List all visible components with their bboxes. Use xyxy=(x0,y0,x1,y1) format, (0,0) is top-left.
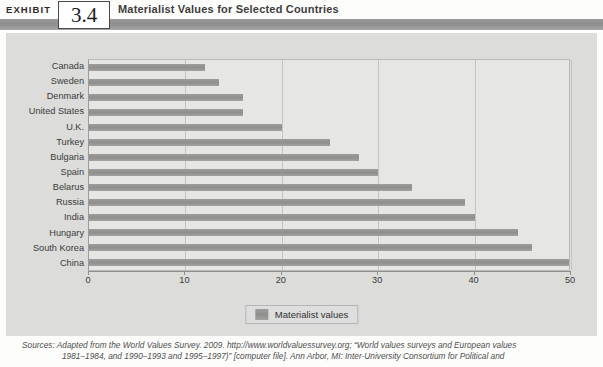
exhibit-word-label: EXHIBIT xyxy=(6,4,51,15)
bar xyxy=(89,154,359,161)
category-label: United States xyxy=(12,104,88,119)
x-axis-tick-label: 40 xyxy=(468,276,478,285)
legend-label: Materialist values xyxy=(275,310,348,320)
bar-row xyxy=(89,150,569,165)
bar-row xyxy=(89,210,569,225)
bar-row xyxy=(89,180,569,195)
category-label: Turkey xyxy=(12,135,88,150)
category-label: Denmark xyxy=(12,89,88,104)
bar-row xyxy=(89,60,569,75)
bar-row xyxy=(89,135,569,150)
exhibit-title: Materialist Values for Selected Countrie… xyxy=(118,3,339,15)
legend-swatch-icon xyxy=(255,309,268,320)
chart-legend: Materialist values xyxy=(245,305,358,324)
gridline xyxy=(571,60,572,270)
exhibit-page: EXHIBIT 3.4 Materialist Values for Selec… xyxy=(0,0,603,367)
bar xyxy=(89,199,465,206)
exhibit-number: 3.4 xyxy=(71,5,97,26)
bar xyxy=(89,214,475,221)
bar xyxy=(89,244,532,251)
exhibit-number-box: 3.4 xyxy=(58,1,110,29)
bar-row xyxy=(89,165,569,180)
bar xyxy=(89,259,569,266)
category-label: Russia xyxy=(12,195,88,210)
bar-series xyxy=(89,60,569,270)
category-label: Bulgaria xyxy=(12,150,88,165)
bar xyxy=(89,229,518,236)
x-axis-tick-label: 50 xyxy=(565,276,575,285)
category-label: Spain xyxy=(12,165,88,180)
bar xyxy=(89,184,412,191)
x-axis-tick-label: 10 xyxy=(179,276,189,285)
bar xyxy=(89,64,205,71)
bar-row xyxy=(89,90,569,105)
bar-row xyxy=(89,105,569,120)
bar xyxy=(89,109,243,116)
bar-row xyxy=(89,75,569,90)
category-label: Sweden xyxy=(12,74,88,89)
sources-line-2: 1981–1984, and 1990–1993 and 1995–1997)”… xyxy=(0,351,603,362)
bar-row xyxy=(89,240,569,255)
category-label: U.K. xyxy=(12,120,88,135)
sources-line-1: Sources: Adapted from the World Values S… xyxy=(0,340,603,351)
bar-row xyxy=(89,120,569,135)
x-axis-tick-label: 30 xyxy=(372,276,382,285)
bar xyxy=(89,169,378,176)
bar-row xyxy=(89,195,569,210)
bar-row xyxy=(89,255,569,270)
x-axis-line xyxy=(88,271,570,272)
category-label: China xyxy=(12,256,88,271)
bar xyxy=(89,79,219,86)
bar xyxy=(89,94,243,101)
sources-note: Sources: Adapted from the World Values S… xyxy=(0,340,603,367)
x-axis-tick-label: 20 xyxy=(276,276,286,285)
bar-row xyxy=(89,225,569,240)
bar xyxy=(89,139,330,146)
category-axis-labels: CanadaSwedenDenmarkUnited StatesU.K.Turk… xyxy=(12,59,88,271)
x-axis-tick-label: 0 xyxy=(85,276,90,285)
category-label: South Korea xyxy=(12,241,88,256)
chart-panel: CanadaSwedenDenmarkUnited StatesU.K.Turk… xyxy=(6,33,597,336)
category-label: India xyxy=(12,210,88,225)
bar xyxy=(89,124,282,131)
plot-area xyxy=(88,59,570,271)
category-label: Canada xyxy=(12,59,88,74)
category-label: Hungary xyxy=(12,226,88,241)
category-label: Belarus xyxy=(12,180,88,195)
exhibit-header: EXHIBIT 3.4 Materialist Values for Selec… xyxy=(0,0,603,32)
plot-wrapper: CanadaSwedenDenmarkUnited StatesU.K.Turk… xyxy=(6,33,597,303)
